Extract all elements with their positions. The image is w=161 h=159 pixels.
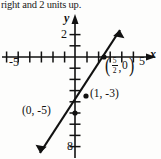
point-marker-1-neg3 [83, 93, 88, 98]
y-tick-label-neg8: 8 [67, 139, 73, 154]
point-label-0-neg5: (0, -5) [22, 104, 51, 116]
y-axis-arrow-icon [72, 14, 79, 24]
point-label-5over2-0: ( 5 2 , 0 ) [104, 57, 135, 76]
fraction-denominator: 2 [113, 66, 117, 74]
fraction-numerator: 5 [113, 57, 117, 65]
open-paren: ( [105, 58, 110, 73]
fraction-five-halves: 5 2 [112, 57, 118, 74]
caption-text: right and 2 units up. [1, 0, 161, 10]
y-tick-label-2: 2 [61, 27, 67, 42]
y-axis-label: y [64, 11, 69, 26]
fraction-zero: 0 [122, 60, 128, 72]
figure-screenshot: right and 2 units up. [0, 0, 161, 159]
fraction-point-group: ( 5 2 , 0 ) [104, 57, 135, 74]
close-paren: ) [129, 58, 134, 73]
point-label-1-neg3: (1, -3) [90, 87, 119, 99]
point-marker-0-neg5 [72, 110, 77, 115]
coordinate-plane [0, 10, 161, 159]
x-axis-label: x [150, 47, 156, 62]
x-tick-label-neg5: -5 [9, 55, 19, 70]
graph-svg [0, 10, 161, 159]
x-tick-label-5: 5 [139, 54, 145, 69]
